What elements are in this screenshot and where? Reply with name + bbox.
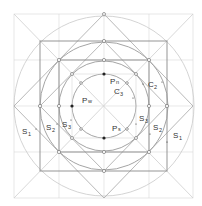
- svg-text:2: 2: [159, 127, 162, 133]
- svg-text:S: S: [62, 120, 67, 129]
- svg-text:2: 2: [52, 127, 55, 133]
- svg-text:S: S: [22, 127, 27, 136]
- svg-text:S: S: [153, 123, 158, 132]
- point-pn: [102, 72, 105, 75]
- label-s2-left: S 2: [46, 123, 55, 133]
- label-s3-left: S 3: [62, 120, 71, 130]
- label-s1-right: S 1: [173, 131, 182, 141]
- label-s1-left: S 1: [22, 127, 31, 137]
- svg-text:P: P: [82, 96, 87, 105]
- label-pw: P w: [82, 96, 92, 105]
- svg-text:3: 3: [68, 124, 71, 130]
- svg-text:s: s: [118, 126, 121, 132]
- svg-text:1: 1: [179, 135, 182, 141]
- svg-text:3: 3: [145, 118, 148, 124]
- label-pn: P n: [110, 77, 119, 86]
- svg-text:2: 2: [154, 84, 157, 90]
- svg-text:S: S: [46, 123, 51, 132]
- svg-text:S: S: [139, 114, 144, 123]
- svg-text:3: 3: [120, 91, 123, 97]
- svg-text:P: P: [112, 124, 117, 133]
- svg-text:S: S: [173, 131, 178, 140]
- point-pw: [70, 104, 73, 107]
- svg-text:P: P: [110, 77, 115, 86]
- point-ps: [102, 136, 105, 139]
- svg-text:1: 1: [28, 131, 31, 137]
- label-c3: C 3: [114, 87, 123, 97]
- label-s3-right: S 3: [139, 114, 148, 124]
- svg-text:n: n: [116, 79, 119, 85]
- label-ps: P s: [112, 124, 121, 133]
- label-c2: C 2: [148, 80, 157, 90]
- geometric-construction-diagram: P n C 3 C 2 P w P s S 1 S 2 S 3 S 3 S 2 …: [0, 0, 202, 206]
- label-s2-right: S 2: [153, 123, 162, 133]
- svg-text:w: w: [87, 98, 92, 104]
